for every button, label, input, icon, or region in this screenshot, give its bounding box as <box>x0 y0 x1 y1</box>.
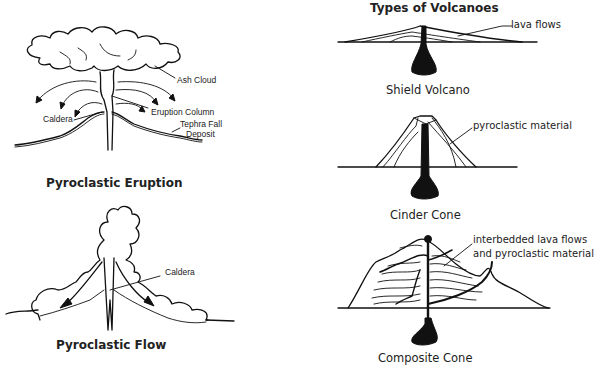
pyroclastic-flow-caption: Pyroclastic Flow <box>56 338 166 352</box>
tephra-label-line1: Tephra Fall <box>180 119 222 129</box>
tephra-leader <box>172 128 180 132</box>
ash-cloud-label: Ash Cloud <box>177 75 216 85</box>
cinder-cone-figure: pyroclastic material Cinder Cone <box>338 116 572 222</box>
pyroclastic-eruption-caption: Pyroclastic Eruption <box>46 176 183 190</box>
eruption-column-label: Eruption Column <box>151 107 215 117</box>
flow-caldera-label: Caldera <box>165 267 195 277</box>
eruption-column-leader <box>112 96 148 108</box>
ash-cloud-leader <box>155 66 175 78</box>
lava-flows-label: lava flows <box>511 19 561 30</box>
pyroclastic-flow-figure: Caldera Pyroclastic Flow <box>6 207 234 352</box>
page-title: Types of Volcanoes <box>370 1 499 15</box>
volcano-diagram: Ash Cloud Eruption Column Caldera Tephra… <box>0 0 606 377</box>
interbedded-label-line2: and pyroclastic material <box>473 248 594 259</box>
lava-flows-leader <box>458 26 512 36</box>
pyroclastic-material-label: pyroclastic material <box>473 120 572 131</box>
cinder-cone-caption: Cinder Cone <box>390 208 461 222</box>
composite-cone-caption: Composite Cone <box>378 351 472 365</box>
caldera-label: Caldera <box>43 114 73 124</box>
interbedded-leader <box>444 244 472 266</box>
tephra-label-line2: Deposit <box>186 129 215 139</box>
shield-volcano-figure: lava flows Shield Volcano <box>338 19 561 97</box>
interbedded-label-line1: interbedded lava flows <box>473 234 587 245</box>
flow-caldera-leader <box>110 276 160 290</box>
composite-cone-figure: interbedded lava flows and pyroclastic m… <box>338 234 594 365</box>
pyroclastic-cloud-shape <box>32 207 208 320</box>
shield-volcano-caption: Shield Volcano <box>386 83 470 97</box>
pyroclastic-material-leader <box>450 128 472 144</box>
pyroclastic-eruption-figure: Ash Cloud Eruption Column Caldera Tephra… <box>15 27 222 190</box>
